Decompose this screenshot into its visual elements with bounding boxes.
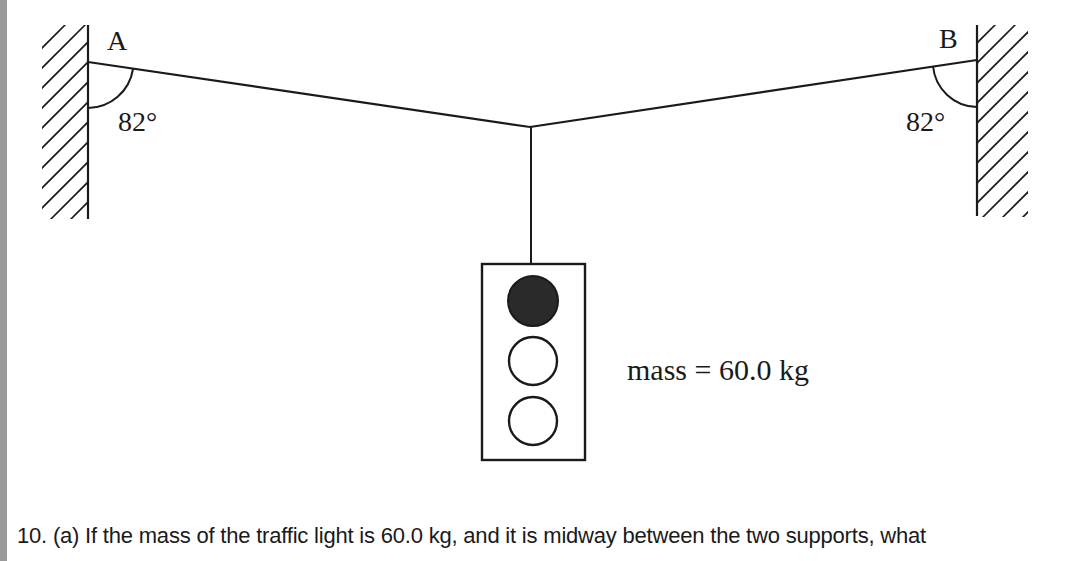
yellow-light-icon xyxy=(509,337,557,385)
mass-label: mass = 60.0 kg xyxy=(627,353,809,386)
green-light-icon xyxy=(509,397,557,445)
red-light-icon xyxy=(508,276,558,326)
angle-arc-a xyxy=(88,69,133,108)
angle-arc-b xyxy=(933,66,977,107)
angle-label-a: 82° xyxy=(118,106,157,137)
angle-label-b: 82° xyxy=(906,106,945,137)
traffic-light-diagram: A 82° B 82° mass = 60.0 kg xyxy=(0,0,1081,500)
label-a: A xyxy=(107,25,128,56)
label-b: B xyxy=(939,23,958,54)
right-wall xyxy=(960,0,1040,280)
question-text: 10. (a) If the mass of the traffic light… xyxy=(17,523,926,549)
left-wall xyxy=(30,0,110,280)
traffic-light xyxy=(482,264,585,460)
